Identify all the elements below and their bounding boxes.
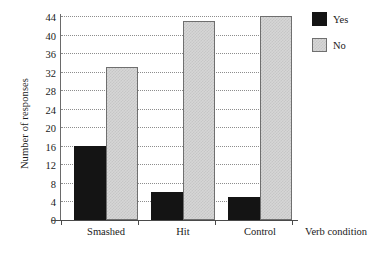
x-axis-tick-0 <box>61 220 62 225</box>
gridline-28: 28 <box>61 90 291 91</box>
gridline-36: 36 <box>61 53 291 54</box>
x-axis-tick-2 <box>215 220 216 225</box>
legend-label-yes: Yes <box>333 14 348 25</box>
y-tick-label-32: 32 <box>32 67 56 78</box>
y-tick-label-20: 20 <box>32 123 56 134</box>
bar-hit-no <box>183 21 215 220</box>
legend-swatch-no-icon <box>312 38 327 52</box>
x-axis-title: Verb condition <box>305 226 367 237</box>
legend-label-no: No <box>333 40 346 51</box>
y-tick-label-24: 24 <box>32 104 56 115</box>
bar-smashed-no <box>106 67 138 220</box>
legend-swatch-yes-icon <box>312 12 327 26</box>
bar-control-yes <box>228 197 260 220</box>
y-tick-label-28: 28 <box>32 86 56 97</box>
y-tick-label-4: 4 <box>32 197 56 208</box>
gridline-32: 32 <box>61 72 291 73</box>
x-category-label-hit: Hit <box>176 226 189 237</box>
chart-legend: Yes No <box>312 12 348 64</box>
x-category-label-smashed: Smashed <box>87 226 125 237</box>
y-tick-label-44: 44 <box>32 12 56 23</box>
legend-item-no: No <box>312 38 348 52</box>
x-axis-line <box>51 220 298 221</box>
bar-smashed-yes <box>74 146 106 220</box>
bar-hit-yes <box>151 192 183 220</box>
y-tick-label-8: 8 <box>32 178 56 189</box>
y-tick-label-40: 40 <box>32 30 56 41</box>
y-axis-title: Number of responses <box>19 44 30 204</box>
x-axis-tick-1 <box>138 220 139 225</box>
bar-chart: Number of responses 0 4 8 12 16 20 24 28… <box>0 0 385 255</box>
x-axis-tick-3 <box>292 220 293 225</box>
gridline-40: 40 <box>61 35 291 36</box>
gridline-20: 20 <box>61 127 291 128</box>
x-category-label-control: Control <box>244 226 276 237</box>
y-tick-label-16: 16 <box>32 141 56 152</box>
gridline-24: 24 <box>61 109 291 110</box>
y-tick-label-36: 36 <box>32 49 56 60</box>
gridline-44: 44 <box>61 16 291 17</box>
y-tick-label-12: 12 <box>32 160 56 171</box>
plot-area: 0 4 8 12 16 20 24 28 32 36 40 <box>61 16 291 220</box>
legend-item-yes: Yes <box>312 12 348 26</box>
bar-control-no <box>260 16 292 220</box>
y-axis-line <box>60 14 61 220</box>
